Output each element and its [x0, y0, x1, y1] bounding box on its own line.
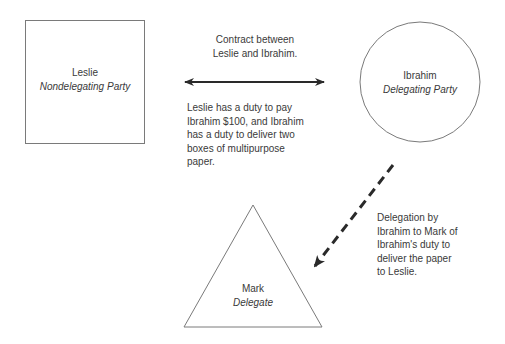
ibrahim-name: Ibrahim — [360, 69, 480, 83]
leslie-label: Leslie Nondelegating Party — [25, 66, 145, 93]
delegation-description: Delegation by Ibrahim to Mark of Ibrahim… — [377, 211, 497, 279]
delegation-desc-line: deliver the paper — [377, 252, 497, 266]
delegation-desc-line: Ibrahim to Mark of — [377, 225, 497, 239]
contract-title-line: Contract between — [185, 33, 325, 47]
ibrahim-label: Ibrahim Delegating Party — [360, 69, 480, 96]
mark-role: Delegate — [193, 296, 313, 310]
contract-desc-line: Ibrahim $100, and Ibrahim — [187, 115, 347, 129]
delegation-desc-line: to Leslie. — [377, 265, 497, 279]
contract-desc-line: Leslie has a duty to pay — [187, 101, 347, 115]
mark-label: Mark Delegate — [193, 282, 313, 309]
contract-desc-line: has a duty to deliver two — [187, 128, 347, 142]
contract-title: Contract between Leslie and Ibrahim. — [185, 33, 325, 60]
contract-description: Leslie has a duty to pay Ibrahim $100, a… — [187, 101, 347, 169]
contract-title-line: Leslie and Ibrahim. — [185, 47, 325, 61]
contract-desc-line: paper. — [187, 155, 347, 169]
leslie-name: Leslie — [25, 66, 145, 80]
contract-desc-line: boxes of multipurpose — [187, 142, 347, 156]
leslie-role: Nondelegating Party — [25, 80, 145, 94]
ibrahim-role: Delegating Party — [360, 83, 480, 97]
delegation-desc-line: Ibrahim's duty to — [377, 238, 497, 252]
mark-name: Mark — [193, 282, 313, 296]
delegation-desc-line: Delegation by — [377, 211, 497, 225]
